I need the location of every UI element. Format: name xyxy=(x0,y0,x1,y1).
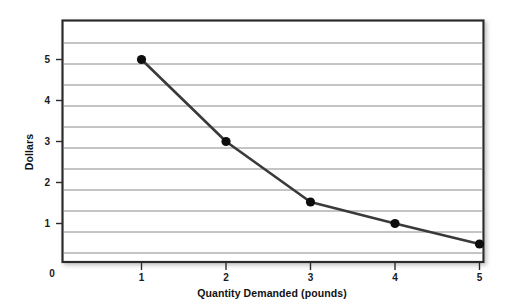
origin-label: 0 xyxy=(49,268,55,279)
plot-frame xyxy=(63,21,484,263)
y-tick-label: 2 xyxy=(44,177,50,188)
y-tick-label: 1 xyxy=(44,218,50,229)
chart-figure: 5 4 3 2 1 0 1 2 3 4 5 xyxy=(0,0,508,307)
data-point xyxy=(221,137,230,146)
data-point xyxy=(306,197,315,206)
x-tick-label: 1 xyxy=(139,272,145,283)
x-tick-label: 5 xyxy=(477,272,483,283)
x-tick-label: 3 xyxy=(308,272,314,283)
x-axis-title: Quantity Demanded (pounds) xyxy=(197,287,347,299)
x-tick-label: 4 xyxy=(392,272,398,283)
data-point xyxy=(475,239,484,248)
data-point xyxy=(390,219,399,228)
data-point xyxy=(137,55,146,64)
y-axis-title: Dollars xyxy=(23,134,35,170)
demand-curve-chart: 5 4 3 2 1 0 1 2 3 4 5 xyxy=(0,0,508,307)
y-tick-label: 3 xyxy=(44,136,50,147)
x-tick-label: 2 xyxy=(223,272,229,283)
y-tick-label: 5 xyxy=(44,54,50,65)
y-tick-label: 4 xyxy=(44,95,50,106)
